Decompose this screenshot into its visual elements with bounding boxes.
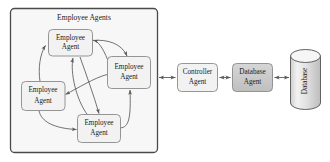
agent-top[interactable]: Employee Agent — [49, 30, 93, 57]
employee-agents-group-title: Employee Agents — [57, 13, 111, 22]
database-store[interactable]: Database — [291, 50, 321, 110]
database-agent-label-line1: Database — [239, 68, 265, 76]
diagram-svg: Employee Agents Employee Agent — [0, 0, 330, 162]
diagram-canvas: Employee Agents Employee Agent — [0, 0, 330, 162]
agent-bottom[interactable]: Employee Agent — [78, 115, 121, 143]
database-cylinder-top — [291, 50, 321, 63]
agent-top-label-line2: Agent — [62, 43, 80, 51]
database-agent-label-line2: Agent — [244, 78, 262, 86]
controller-agent[interactable]: Controller Agent — [178, 64, 218, 92]
agent-bottom-label-line1: Employee — [84, 119, 113, 127]
agent-left[interactable]: Employee Agent — [22, 82, 66, 111]
agent-right-label-line2: Agent — [120, 73, 138, 81]
agent-left-label-line2: Agent — [34, 97, 52, 105]
agent-right[interactable]: Employee Agent — [108, 57, 151, 89]
controller-agent-label-line1: Controller — [183, 68, 213, 76]
agent-left-label-line1: Employee — [28, 86, 57, 94]
database-agent[interactable]: Database Agent — [233, 64, 273, 92]
agent-right-label-line1: Employee — [114, 63, 143, 71]
controller-agent-label-line2: Agent — [189, 78, 207, 86]
database-store-label: Database — [301, 68, 309, 94]
agent-top-label-line1: Employee — [56, 34, 85, 42]
agent-bottom-label-line2: Agent — [90, 129, 108, 137]
